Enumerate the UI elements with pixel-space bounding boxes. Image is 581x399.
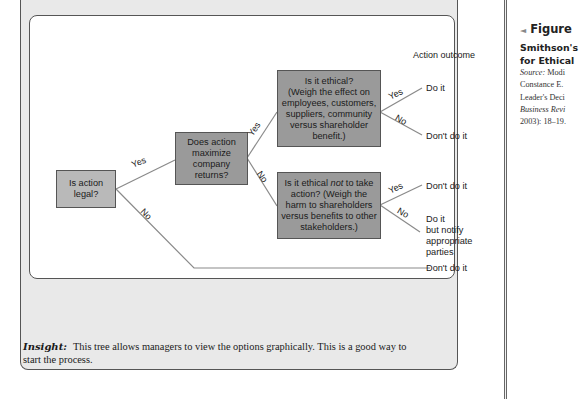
node-label-pre: Is it ethical — [285, 178, 331, 188]
node-label: Is action legal? — [59, 178, 113, 200]
outcome-dont-do-it: Don't do it — [426, 181, 467, 192]
outcome-do-it-but-notify: Do it but notify appropriate parties — [426, 214, 472, 258]
insight-caption: Insight:This tree allows managers to vie… — [23, 340, 423, 366]
outcome-dont-do-it: Don't do it — [426, 131, 467, 142]
node-label-detail: (Weigh the effect on employees, customer… — [280, 87, 378, 142]
source-line: Constance E. — [520, 79, 566, 91]
outcome-dont-do-it: Don't do it — [426, 263, 467, 274]
node-is-it-ethical: Is it ethical? (Weigh the effect on empl… — [277, 70, 381, 147]
node-label: Does action maximize company returns? — [178, 137, 245, 181]
node-is-it-ethical-not-to-act: Is it ethical not to take action? (Weigh… — [277, 172, 381, 239]
outcome-line: Do it — [426, 214, 472, 225]
outcome-column-header: Action outcome — [413, 50, 475, 60]
subtitle-line: Smithson's — [520, 41, 578, 54]
figure-source: Source: Modi Constance E. Leader's Deci … — [520, 67, 566, 128]
outcome-do-it: Do it — [426, 83, 445, 94]
outcome-line: appropriate — [426, 236, 472, 247]
node-label-emphasis: not — [331, 178, 344, 188]
outcome-line: parties — [426, 247, 472, 258]
node-label-title: Is it ethical? — [305, 76, 354, 87]
subtitle-line: for Ethical — [520, 54, 578, 67]
figure-subtitle: Smithson's for Ethical — [520, 41, 578, 67]
node-label: Is it ethical not to take action? (Weigh… — [280, 178, 378, 233]
node-is-action-legal: Is action legal? — [56, 170, 116, 208]
figure-label: Figure — [530, 22, 572, 36]
figure-title: ◄Figure — [520, 22, 572, 36]
node-maximize-returns: Does action maximize company returns? — [175, 132, 248, 185]
source-line: Leader's Deci — [520, 92, 566, 104]
source-line: 2003): 18–19. — [520, 116, 566, 128]
insight-text: This tree allows managers to view the op… — [23, 341, 407, 365]
outcome-line: but notify — [426, 225, 472, 236]
source-line: Modi — [547, 68, 565, 77]
insight-label: Insight: — [23, 341, 67, 352]
source-label: Source: — [520, 68, 545, 77]
triangle-left-icon: ◄ — [520, 26, 526, 35]
source-line: Business Revi — [520, 105, 565, 114]
